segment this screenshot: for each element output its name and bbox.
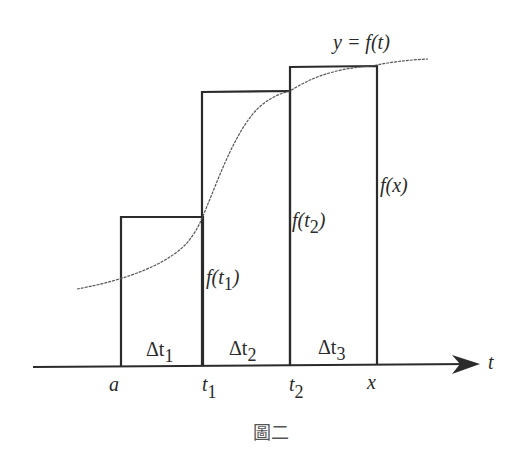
interval-label-3: Δt3 [318,336,345,364]
tick-label-t2: t2 [289,373,304,402]
tick-label-x: x [366,371,376,393]
height-label-f-t1: f(t1) [206,266,240,294]
tick-label-a: a [109,373,119,395]
curve-label: y = f(t) [331,31,390,54]
interval-label-2: Δt2 [229,337,256,365]
height-label-f-x: f(x) [380,174,408,197]
function-curve [77,59,428,289]
axis-label-t: t [488,351,494,373]
rectangle-2 [202,91,290,366]
figure-caption: 圖二 [253,422,289,443]
height-label-f-t2: f(t2) [292,209,326,237]
tick-label-t1: t1 [202,373,217,402]
riemann-sum-diagram: y = f(t) f(t1) f(t2) f(x) Δt1 Δt2 Δt3 a … [0,0,532,458]
interval-label-1: Δt1 [146,338,173,366]
